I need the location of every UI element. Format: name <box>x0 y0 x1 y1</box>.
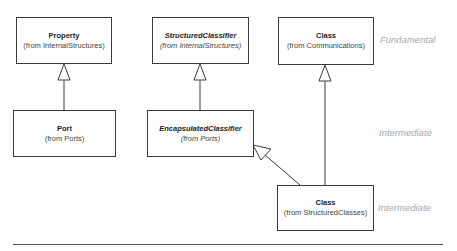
class-package: (from Ports) <box>181 134 221 144</box>
class-package: (from InternalStructures) <box>23 41 104 51</box>
class-name: Class <box>316 31 336 41</box>
generalization-arrowhead-icon <box>194 64 206 80</box>
generalization-arrowhead-icon <box>319 65 331 81</box>
class-box-structured-classifier: StructuredClassifier (from InternalStruc… <box>152 17 249 64</box>
class-box-encapsulated-classifier: EncapsulatedClassifier (from Ports) <box>147 110 254 157</box>
class-package: (from StructuredClasses) <box>284 208 367 218</box>
class-box-class-structured-classes: Class (from StructuredClasses) <box>277 185 374 231</box>
level-label-fundamental: Fundamental <box>380 34 435 45</box>
class-box-port: Port (from Ports) <box>13 110 116 157</box>
class-name: StructuredClassifier <box>165 31 237 41</box>
class-package: (from Ports) <box>45 134 85 144</box>
generalization-arrowhead-icon <box>58 64 70 80</box>
level-label-intermediate: Intermediate <box>379 127 432 138</box>
class-package: (from Communications) <box>287 41 365 51</box>
class-name: EncapsulatedClassifier <box>159 124 242 134</box>
class-package: (from InternalStructures) <box>160 41 241 51</box>
class-box-property: Property (from InternalStructures) <box>16 17 112 64</box>
class-name: Port <box>57 124 72 134</box>
class-name: Property <box>49 31 80 41</box>
class-name: Class <box>315 198 335 208</box>
level-label-intermediate: Intermediate <box>378 202 431 213</box>
class-box-class-communications: Class (from Communications) <box>278 17 374 65</box>
